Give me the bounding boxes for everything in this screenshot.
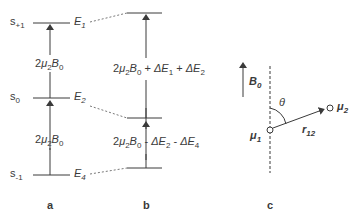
transition-b-upper: 2μ2B0 + ΔE1 + ΔE2 [113, 63, 205, 77]
r12-label: r12 [302, 124, 315, 138]
mu1-circle [267, 127, 273, 133]
energy-e2: E2 [74, 91, 86, 105]
transition-a-upper: 2μ2B0 [35, 58, 63, 72]
b0-label: B0 [249, 76, 261, 90]
transition-b-lower: 2μ2B0 - ΔE2 - ΔE4 [113, 136, 199, 150]
transition-a-lower: 2μ2B0 [35, 134, 63, 148]
state-s-plus1: s+1 [10, 16, 25, 30]
panel-a-levels [33, 23, 70, 175]
mu2-circle [327, 105, 333, 111]
state-s0: s0 [10, 91, 20, 105]
energy-level-diagram [0, 0, 358, 220]
state-s-minus1: s-1 [10, 168, 23, 182]
mu1-label: μ1 [250, 130, 261, 144]
theta-arc [270, 108, 286, 124]
mu2-label: μ2 [337, 101, 348, 115]
theta-label: θ [279, 97, 285, 108]
panel-c-label: c [267, 200, 273, 211]
energy-e4: E4 [74, 168, 86, 182]
panel-a-label: a [47, 200, 53, 211]
energy-e1: E1 [74, 16, 86, 30]
panel-b-label: b [143, 200, 150, 211]
